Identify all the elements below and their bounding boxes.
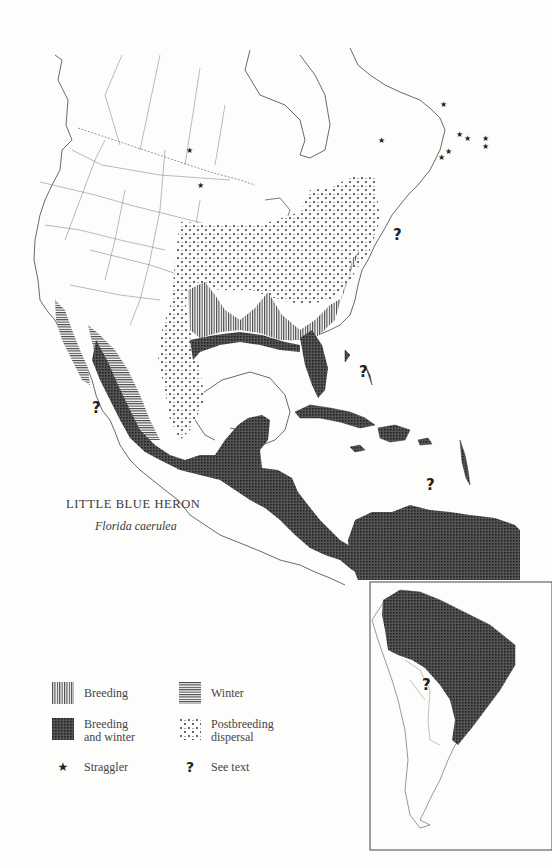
question-icon: ?	[426, 476, 435, 494]
star-icon: ★	[482, 142, 489, 151]
breeding-and-winter-south-america	[348, 505, 520, 580]
legend-label: Winter	[211, 687, 244, 700]
question-icon: ?	[393, 226, 402, 244]
species-name: Florida caerulea	[95, 519, 177, 534]
vertical-lines-swatch-icon	[52, 682, 74, 704]
star-icon: ★	[456, 130, 463, 139]
winter-area-baja	[55, 300, 90, 385]
legend-label: Postbreedingdispersal	[211, 718, 274, 744]
star-icon: ★	[464, 134, 471, 143]
breeding-and-winter-florida	[300, 330, 328, 398]
legend-item-straggler: ★ Straggler	[52, 756, 128, 778]
grid-swatch-icon	[52, 718, 74, 740]
legend-item-postbreeding-dispersal: Postbreedingdispersal	[179, 718, 274, 744]
legend: Breeding Winter Breedingand winter Postb…	[52, 682, 352, 792]
legend-item-breeding: Breeding	[52, 682, 128, 704]
star-icon: ★	[378, 136, 385, 145]
legend-item-breeding-and-winter: Breedingand winter	[52, 718, 135, 744]
star-icon: ★	[440, 100, 447, 109]
star-icon: ★	[197, 181, 204, 190]
star-icon: ★	[445, 147, 452, 156]
south-america-inset	[370, 582, 552, 850]
question-icon: ?	[359, 363, 368, 381]
dots-swatch-icon	[179, 718, 201, 740]
horizontal-lines-swatch-icon	[179, 682, 201, 704]
star-icon: ★	[52, 756, 74, 778]
legend-label: Breeding	[84, 687, 128, 700]
star-icon: ★	[186, 146, 193, 155]
legend-label: See text	[211, 761, 249, 774]
legend-item-see-text: ? See text	[179, 756, 249, 778]
legend-label: Straggler	[84, 761, 128, 774]
question-icon: ?	[92, 399, 101, 417]
map-title: LITTLE BLUE HERON	[66, 497, 200, 512]
question-icon: ?	[179, 756, 201, 778]
legend-item-winter: Winter	[179, 682, 244, 704]
question-icon: ?	[422, 676, 431, 694]
legend-label: Breedingand winter	[84, 718, 135, 744]
straggler-markers: ★ ★ ★ ★ ★ ★ ★ ★ ★ ★	[186, 100, 489, 190]
